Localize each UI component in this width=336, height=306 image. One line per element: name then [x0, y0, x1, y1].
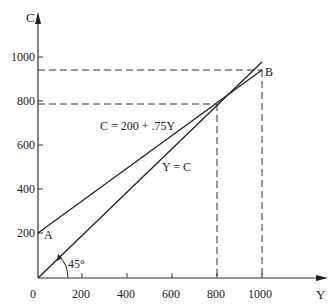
svg-text:200: 200 [17, 226, 35, 240]
svg-text:600: 600 [162, 287, 180, 301]
angle-arc [59, 256, 68, 278]
svg-text:1000: 1000 [11, 50, 35, 64]
identity-line-label: Y = C [162, 160, 191, 174]
svg-text:800: 800 [207, 287, 225, 301]
svg-text:400: 400 [17, 182, 35, 196]
angle-label: 45° [68, 257, 85, 271]
x-axis-arrow-icon [316, 275, 328, 281]
consumption-line-label: C = 200 + .75Y [100, 119, 176, 133]
svg-text:1000: 1000 [248, 287, 272, 301]
svg-text:800: 800 [17, 94, 35, 108]
y-axis-label: C [26, 10, 35, 25]
svg-text:400: 400 [117, 287, 135, 301]
x-ticks: 200 400 600 800 1000 [72, 273, 272, 301]
point-a-label: A [44, 228, 53, 242]
x-axis-label: Y [316, 287, 326, 302]
svg-text:200: 200 [72, 287, 90, 301]
svg-text:600: 600 [17, 138, 35, 152]
point-b-label: B [265, 65, 273, 79]
origin-label: 0 [30, 287, 36, 301]
dashed-guides [38, 70, 262, 278]
identity-line [38, 62, 262, 278]
consumption-function-chart: C Y 0 200 400 600 800 1000 200 400 600 8… [0, 0, 336, 306]
y-axis-arrow-icon [35, 12, 41, 24]
